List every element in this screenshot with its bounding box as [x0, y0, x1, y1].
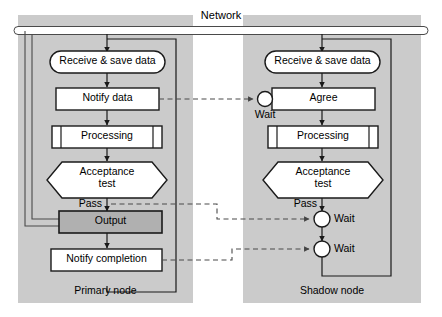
shadow-agree-label: Agree: [272, 92, 375, 103]
shadow-wait-1-label: Wait: [334, 213, 374, 224]
shadow-processing-label: Processing: [268, 130, 378, 141]
primary-notify-completion-label: Notify completion: [51, 253, 162, 264]
primary-output-label: Output: [59, 215, 162, 226]
network-label: Network: [0, 10, 442, 22]
shadow-acceptance-label-line1: Acceptance: [263, 166, 383, 177]
diagram-svg: [0, 0, 442, 317]
primary-acceptance-label-line1: Acceptance: [47, 166, 167, 177]
primary-pass-label: Pass: [66, 198, 102, 209]
primary-processing-label: Processing: [52, 130, 162, 141]
shadow-wait-2-shape: [314, 241, 330, 257]
shadow-acceptance-label-line2: test: [263, 178, 383, 189]
primary-notify-data-label: Notify data: [56, 92, 159, 103]
primary-acceptance-label-line2: test: [47, 178, 167, 189]
shadow-wait-agree-label: Wait: [243, 109, 287, 120]
diagram-canvas: Network Receive & save data Notify data …: [0, 0, 442, 317]
primary-receive-label: Receive & save data: [50, 55, 165, 66]
network-bus: [14, 27, 428, 35]
shadow-wait-1-shape: [314, 211, 330, 227]
shadow-pass-label: Pass: [281, 198, 317, 209]
shadow-receive-label: Receive & save data: [265, 55, 380, 66]
shadow-wait-agree-shape: [258, 92, 273, 107]
primary-node-caption: Primary node: [18, 285, 193, 296]
shadow-wait-2-label: Wait: [334, 243, 374, 254]
shadow-node-caption: Shadow node: [243, 285, 421, 296]
